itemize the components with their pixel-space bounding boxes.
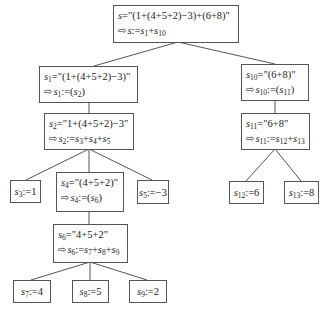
node-s2: s2="1+(4+5+2)−3" ⇨s2:=s3+s4+s5 — [44, 113, 134, 150]
node-s2-expression: s2="1+(4+5+2)−3" — [49, 116, 129, 131]
node-s10: s10="(6+8)" ⇨s10:=(s11) — [241, 64, 309, 101]
implies-arrow-icon: ⇨ — [58, 244, 66, 255]
node-s1: s1="(1+(4+5+2)−3)" ⇨s1:=(s2) — [39, 66, 138, 103]
node-s8-value: s8:=5 — [80, 284, 102, 299]
implies-arrow-icon: ⇨ — [118, 25, 126, 36]
implies-arrow-icon: ⇨ — [44, 86, 52, 97]
node-s5-value: s5:=−3 — [139, 185, 167, 200]
node-s5: s5:=−3 — [137, 180, 169, 204]
node-s4: s4="(4+5+2)" ⇨s4:=(s6) — [56, 172, 124, 212]
node-s9: s9:=2 — [129, 280, 167, 303]
node-s4-rule: ⇨s4:=(s6) — [61, 190, 119, 205]
node-s-rule: ⇨s:=s1+s10 — [118, 23, 234, 38]
node-s6-rule: ⇨s6:=s7+s8+s9 — [58, 242, 123, 257]
node-s3: s3:=1 — [10, 180, 41, 203]
node-s10-rule: ⇨s10:=(s11) — [246, 82, 304, 97]
node-s1-rule: ⇨s1:=(s2) — [44, 84, 133, 99]
node-s6: s6="4+5+2" ⇨s6:=s7+s8+s9 — [53, 224, 128, 263]
edge-s-s1 — [94, 42, 178, 66]
node-s11-expression: s11="6+8" — [246, 116, 305, 131]
node-s13-value: s13:=8 — [289, 185, 315, 200]
node-s6-expression: s6="4+5+2" — [58, 227, 123, 242]
implies-arrow-icon: ⇨ — [49, 133, 57, 144]
node-s12: s12:=6 — [229, 181, 264, 204]
tree-edges — [0, 0, 327, 311]
node-s-expression: s="(1+(4+5+2)−3)+(6+8)" — [118, 8, 234, 23]
node-s8: s8:=5 — [72, 280, 109, 303]
edge-s11-s12 — [246, 149, 275, 181]
node-s3-value: s3:=1 — [15, 184, 37, 199]
node-s11: s11="6+8" ⇨s11:=s12+s13 — [241, 113, 310, 150]
node-s4-expression: s4="(4+5+2)" — [61, 175, 119, 190]
node-s12-value: s12:=6 — [234, 185, 260, 200]
implies-arrow-icon: ⇨ — [246, 133, 254, 144]
edge-s6-s9 — [90, 262, 147, 280]
node-s: s="(1+(4+5+2)−3)+(6+8)" ⇨s:=s1+s10 — [113, 5, 239, 43]
edge-s11-s13 — [275, 149, 301, 181]
implies-arrow-icon: ⇨ — [246, 84, 254, 95]
node-s11-rule: ⇨s11:=s12+s13 — [246, 131, 305, 146]
edge-s-s10 — [178, 42, 275, 64]
node-s13: s13:=8 — [284, 181, 319, 204]
node-s7: s7:=4 — [13, 280, 51, 303]
node-s9-value: s9:=2 — [137, 284, 159, 299]
node-s7-value: s7:=4 — [21, 284, 43, 299]
edge-s6-s7 — [31, 262, 90, 280]
node-s10-expression: s10="(6+8)" — [246, 67, 304, 82]
node-s1-expression: s1="(1+(4+5+2)−3)" — [44, 69, 133, 84]
implies-arrow-icon: ⇨ — [61, 192, 69, 203]
node-s2-rule: ⇨s2:=s3+s4+s5 — [49, 131, 129, 146]
